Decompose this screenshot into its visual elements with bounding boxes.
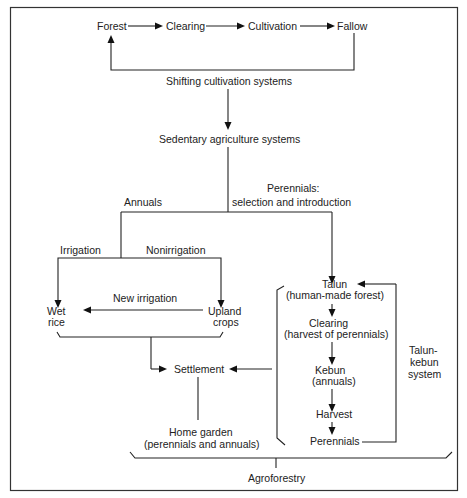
arrow-head-icon <box>357 281 365 288</box>
node-shifting-cultivation: Shifting cultivation systems <box>166 75 292 87</box>
arrow-head-icon <box>155 23 163 30</box>
label-talun-kebun-system-2: kebun <box>410 356 439 368</box>
node-clearing: Clearing <box>166 20 205 32</box>
arrow-head-icon <box>327 23 335 30</box>
label-nonirrigation: Nonirrigation <box>146 244 206 256</box>
node-cultivation: Cultivation <box>248 20 297 32</box>
label-talun-kebun-system: Talun- <box>409 344 438 356</box>
label-perennials: Perennials: <box>267 182 320 194</box>
node-home-garden-2: (perennials and annuals) <box>144 438 260 450</box>
node-settlement: Settlement <box>174 363 224 375</box>
node-forest: Forest <box>97 20 127 32</box>
label-new-irrigation: New irrigation <box>113 292 177 304</box>
label-annuals: Annuals <box>124 196 162 208</box>
arrow-head-icon <box>237 23 245 30</box>
node-talun-2: (human-made forest) <box>286 289 384 301</box>
node-upland-crops-2: crops <box>213 316 239 328</box>
arrow-head-icon <box>229 366 237 373</box>
node-sedentary-agriculture: Sedentary agriculture systems <box>159 133 300 145</box>
arrow-head-icon <box>159 366 167 373</box>
label-selection-introduction: selection and introduction <box>232 196 351 208</box>
arrow-head-icon <box>83 307 91 314</box>
node-wet-rice-2: rice <box>48 316 65 328</box>
agroforestry-flow-diagram: Forest Clearing Cultivation Fallow Shift… <box>0 0 467 498</box>
arrow-head-icon <box>329 309 336 317</box>
node-perennials: Perennials <box>310 435 360 447</box>
label-talun-kebun-system-3: system <box>408 368 442 380</box>
node-agroforestry: Agroforestry <box>248 472 306 484</box>
node-kebun-2: (annuals) <box>312 375 356 387</box>
label-irrigation: Irrigation <box>60 244 101 256</box>
node-harvest: Harvest <box>316 408 352 420</box>
arrow-head-icon <box>108 35 115 43</box>
arrow-head-icon <box>225 122 232 130</box>
arrow-head-icon <box>329 427 336 435</box>
node-fallow: Fallow <box>337 20 368 32</box>
node-home-garden: Home garden <box>169 426 233 438</box>
node-clearing-perennials-2: (harvest of perennials) <box>284 328 388 340</box>
